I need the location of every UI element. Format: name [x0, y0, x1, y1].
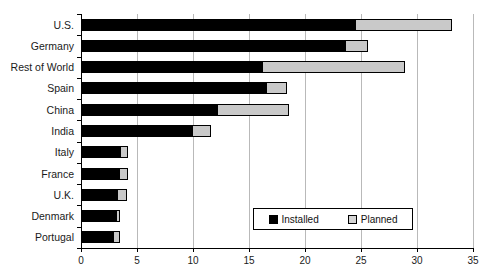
chart-title-clipped — [0, 0, 480, 4]
legend-label-planned: Planned — [361, 214, 398, 225]
bar-row — [81, 61, 473, 73]
bar-segment-installed — [81, 146, 121, 158]
x-axis-tick — [137, 248, 138, 252]
y-axis-category-label: France — [41, 168, 74, 180]
legend-item-planned: Planned — [348, 214, 398, 225]
bar-row — [81, 125, 473, 137]
x-axis-tick-label: 25 — [341, 255, 381, 267]
bar-row — [81, 82, 473, 94]
bar-segment-installed — [81, 61, 263, 73]
bar-segment-planned — [192, 125, 211, 137]
x-axis-tick — [361, 248, 362, 252]
bar-row — [81, 40, 473, 52]
y-axis-category-label: India — [51, 125, 74, 137]
x-axis-tick-label: 10 — [173, 255, 213, 267]
x-axis-tick-label: 15 — [229, 255, 269, 267]
bar-segment-installed — [81, 19, 356, 31]
legend-label-installed: Installed — [282, 214, 319, 225]
bar-segment-planned — [345, 40, 367, 52]
bar-segment-planned — [116, 210, 120, 222]
x-axis-tick-label: 0 — [61, 255, 101, 267]
x-axis-tick — [473, 248, 474, 252]
y-axis-category-label: Rest of World — [11, 61, 74, 73]
bar-segment-installed — [81, 210, 117, 222]
y-axis-category-label: Denmark — [31, 210, 74, 222]
y-axis-category-label: Portugal — [35, 231, 74, 243]
x-axis-tick — [249, 248, 250, 252]
bar-segment-installed — [81, 189, 118, 201]
bar-segment-planned — [262, 61, 404, 73]
bar-row — [81, 104, 473, 116]
bar-row — [81, 189, 473, 201]
bar-row — [81, 146, 473, 158]
x-axis-tick — [417, 248, 418, 252]
y-axis-category-label: Spain — [47, 82, 74, 94]
x-axis-tick — [305, 248, 306, 252]
x-axis-tick-label: 30 — [397, 255, 437, 267]
bar-segment-installed — [81, 168, 120, 180]
legend-swatch-installed — [269, 215, 278, 224]
y-axis-category-label: U.S. — [54, 19, 74, 31]
legend-swatch-planned — [348, 215, 357, 224]
bar-row — [81, 19, 473, 31]
y-axis-category-label: China — [47, 104, 74, 116]
bar-row — [81, 168, 473, 180]
bar-segment-installed — [81, 82, 267, 94]
bar-segment-planned — [266, 82, 287, 94]
x-axis-tick — [193, 248, 194, 252]
bar-segment-planned — [120, 146, 128, 158]
gridline — [473, 14, 474, 248]
y-axis-tick — [77, 248, 82, 249]
y-axis-category-label: Germany — [31, 40, 74, 52]
bar-segment-installed — [81, 40, 346, 52]
bar-segment-planned — [117, 189, 127, 201]
bar-segment-installed — [81, 125, 193, 137]
bar-segment-planned — [355, 19, 451, 31]
x-axis-tick-label: 35 — [453, 255, 480, 267]
bar-row — [81, 231, 473, 243]
legend-item-installed: Installed — [269, 214, 319, 225]
bar-segment-installed — [81, 104, 218, 116]
bar-segment-installed — [81, 231, 114, 243]
bar-segment-planned — [119, 168, 128, 180]
bar-segment-planned — [217, 104, 290, 116]
y-axis-category-label: U.K. — [54, 189, 74, 201]
y-axis-category-label: Italy — [55, 146, 74, 158]
chart-legend: Installed Planned — [253, 208, 413, 230]
bar-chart: 05101520253035 U.S.GermanyRest of WorldS… — [0, 0, 480, 278]
y-axis-category-labels: U.S.GermanyRest of WorldSpainChinaIndiaI… — [0, 14, 74, 248]
x-axis-line — [81, 248, 474, 249]
x-axis-tick-label: 20 — [285, 255, 325, 267]
x-axis-tick-label: 5 — [117, 255, 157, 267]
bar-segment-planned — [113, 231, 120, 243]
